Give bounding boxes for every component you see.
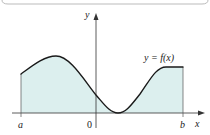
tick-label-b: b [180,120,185,130]
x-axis-arrow-icon [198,111,205,116]
frame-border [2,0,208,4]
x-axis-label: x [195,119,199,129]
shaded-area [21,56,183,113]
figure-graphic [0,0,210,135]
tick-label-origin: 0 [87,120,92,130]
y-axis-arrow-icon [94,13,99,20]
function-label: y = f(x) [144,53,174,63]
area-under-curve-figure: y y = f(x) a 0 b x [0,0,210,135]
tick-label-a: a [18,120,23,130]
y-axis-label: y [85,10,89,20]
